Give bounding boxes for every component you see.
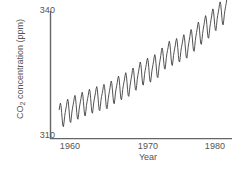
x-axis-tick-label-1980: 1980 bbox=[200, 141, 230, 151]
y-axis-title: CO2 concentration (ppm) bbox=[15, 0, 25, 139]
y-axis-tick-label-340: 340 bbox=[40, 5, 55, 15]
x-axis-title: Year bbox=[118, 152, 178, 162]
axis-spines bbox=[50, 11, 232, 139]
x-axis-tick-label-1970: 1970 bbox=[133, 141, 163, 151]
y-axis-title-subscript: 2 bbox=[19, 102, 26, 106]
y-axis-title-prefix: CO bbox=[15, 105, 25, 119]
co2-data-line bbox=[59, 0, 227, 127]
y-axis-tick-label-310: 310 bbox=[40, 130, 55, 140]
y-axis-title-suffix: concentration (ppm) bbox=[15, 19, 25, 102]
co2-concentration-chart: 340 310 1960 1970 1980 Year CO2 concentr… bbox=[0, 0, 247, 170]
x-axis-tick-label-1960: 1960 bbox=[55, 141, 85, 151]
